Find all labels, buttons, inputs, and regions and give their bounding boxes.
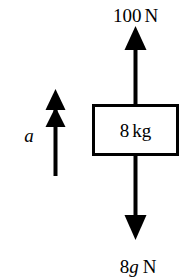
- mass-unit: kg: [132, 120, 152, 141]
- weight-force-arrowhead: [125, 215, 147, 240]
- weight-force-arrow-down: [125, 155, 147, 240]
- weight-magnitude: 8: [120, 256, 130, 277]
- acceleration-label: a: [24, 125, 34, 146]
- weight-gravity-symbol: g: [129, 256, 139, 277]
- force-diagram-canvas: 100N 8kg 8gN a: [0, 0, 186, 278]
- weight-force-label: 8gN: [120, 256, 157, 277]
- mass-value: 8: [120, 120, 130, 141]
- applied-force-unit: N: [144, 5, 158, 26]
- acceleration-arrowhead-upper: [46, 89, 66, 110]
- applied-force-arrowhead: [125, 26, 147, 50]
- mass-box-label: 8kg: [120, 120, 152, 141]
- acceleration-arrow: [46, 89, 66, 176]
- applied-force-magnitude: 100: [113, 5, 142, 26]
- applied-force-label: 100N: [113, 5, 159, 26]
- applied-force-arrow-up: [125, 26, 147, 104]
- free-body-diagram: 100N 8kg 8gN a: [0, 0, 186, 278]
- weight-unit: N: [143, 256, 157, 277]
